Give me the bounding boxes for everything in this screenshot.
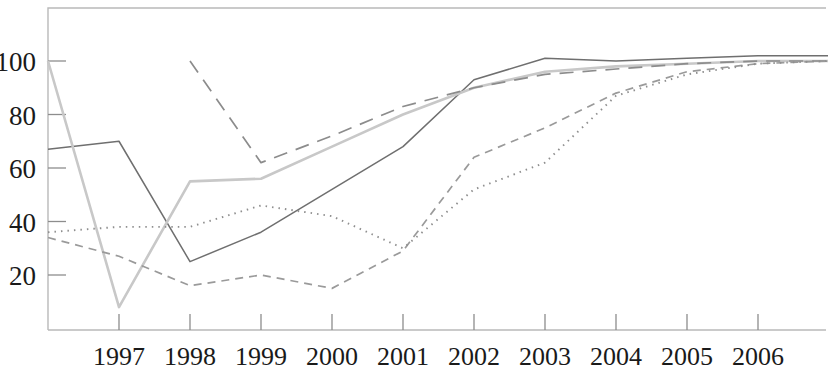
x-tick-label: 2003 [519,342,571,371]
x-tick-label: 2002 [448,342,500,371]
x-tick-label: 2000 [306,342,358,371]
x-tick-label: 1999 [235,342,287,371]
x-axis-ticks [119,314,758,330]
y-tick-label: 60 [9,154,36,184]
series-solid [48,56,828,262]
y-tick-label: 80 [9,101,36,131]
x-tick-label: 2005 [661,342,713,371]
x-axis-tick-labels: 1997199819992000200120022003200420052006 [93,342,784,371]
series-lines [48,56,828,307]
x-tick-label: 2006 [732,342,784,371]
x-tick-label: 1997 [93,342,145,371]
y-axis-tick-labels: 20406080100 [0,47,36,291]
series-long-dash [190,61,828,163]
y-tick-label: 100 [0,47,36,77]
x-tick-label: 1998 [164,342,216,371]
y-tick-label: 20 [9,261,36,291]
chart-page: 20406080100 1997199819992000200120022003… [0,0,828,375]
y-tick-label: 40 [9,208,36,238]
plot-frame [48,8,826,330]
line-chart: 20406080100 1997199819992000200120022003… [0,0,828,375]
x-tick-label: 2001 [377,342,429,371]
plot-frame-border [48,8,826,330]
x-tick-label: 2004 [590,342,642,371]
series-short-dash [48,61,828,288]
